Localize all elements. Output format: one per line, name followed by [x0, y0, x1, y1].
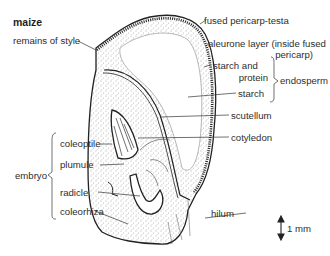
label-hilum: hilum	[211, 208, 234, 219]
label-radicle: radicle	[60, 187, 88, 198]
label-aleurone-layer-cont: pericarp)	[250, 49, 313, 60]
label-fused-pericarp-testa: fused pericarp-testa	[204, 15, 289, 26]
label-scutellum: scutellum	[231, 110, 272, 121]
label-starch: starch	[238, 88, 264, 99]
label-coleoptile: coleoptile	[60, 138, 101, 149]
label-embryo: embryo	[15, 170, 47, 181]
label-starch-and: starch and	[213, 60, 258, 71]
scale-bar-label: 1 mm	[287, 223, 311, 234]
label-aleurone-layer: aleurone layer (inside fused	[208, 38, 326, 49]
label-coleorhiza: coleorhiza	[60, 206, 104, 217]
label-plumule: plumule	[60, 159, 94, 170]
label-protein: protein	[220, 72, 268, 83]
label-endosperm: endosperm	[280, 75, 328, 86]
scale-bar-arrow	[278, 216, 284, 240]
label-cotyledon: cotyledon	[231, 132, 272, 143]
diagram-title: maize	[13, 16, 42, 28]
label-remains-of-style: remains of style	[13, 35, 80, 46]
